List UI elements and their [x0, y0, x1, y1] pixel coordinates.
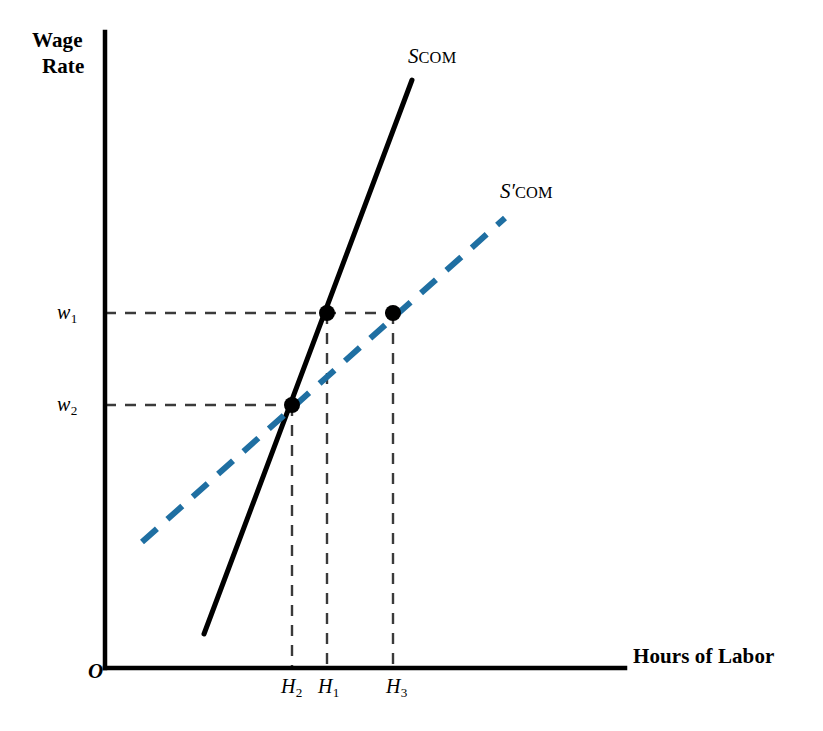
plot-canvas — [0, 0, 823, 731]
curve-label-symbol-s: S — [408, 44, 419, 68]
curve-label-subscript-com-prime: COM — [515, 183, 553, 202]
y-tick-subscript-w1: 1 — [71, 311, 78, 326]
supply-curves-group — [142, 80, 505, 634]
curve-s-com — [142, 218, 505, 542]
point-H3-w1 — [385, 305, 401, 321]
y-tick-symbol-w1: w — [57, 301, 70, 323]
x-tick-subscript-h3: 3 — [401, 685, 408, 700]
labor-supply-diagram: Wage Rate Hours of Labor O w1 w2 H2 H1 H… — [0, 0, 823, 731]
y-axis-title-line2: Rate — [42, 56, 84, 77]
x-tick-symbol-h3: H — [386, 675, 400, 697]
x-tick-label-h2: H2 — [281, 676, 302, 699]
point-H2-w2 — [284, 397, 300, 413]
curve-s-com — [204, 80, 412, 634]
curve-label-s-prime-com: S′COM — [500, 181, 553, 202]
y-axis-title: Wage Rate — [32, 30, 84, 77]
y-tick-label-w2: w2 — [57, 394, 77, 417]
y-axis-title-line1: Wage — [32, 28, 83, 52]
x-tick-label-h3: H3 — [386, 676, 407, 699]
x-tick-symbol-h2: H — [281, 675, 295, 697]
curve-label-s-com: SCOM — [408, 46, 456, 67]
y-tick-subscript-w2: 2 — [71, 403, 78, 418]
x-tick-subscript-h1: 1 — [333, 685, 340, 700]
x-axis-title: Hours of Labor — [633, 646, 774, 667]
y-tick-label-w1: w1 — [57, 302, 77, 325]
point-H1-w1 — [319, 305, 335, 321]
origin-label: O — [88, 661, 103, 682]
guide-lines-group — [105, 313, 400, 668]
x-tick-label-h1: H1 — [318, 676, 339, 699]
x-tick-symbol-h1: H — [318, 675, 332, 697]
curve-label-subscript-com: COM — [419, 48, 457, 67]
y-tick-symbol-w2: w — [57, 393, 70, 415]
curve-label-symbol-s-prime: S — [500, 179, 511, 203]
x-tick-subscript-h2: 2 — [296, 685, 303, 700]
